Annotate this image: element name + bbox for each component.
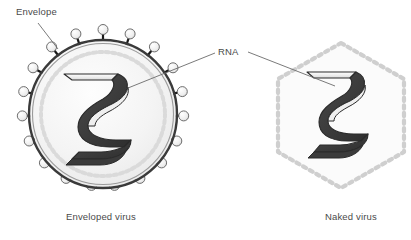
virus-comparison-diagram bbox=[0, 0, 411, 240]
naked-capsid-hexagon bbox=[278, 43, 404, 188]
caption-naked-virus: Naked virus bbox=[325, 211, 377, 222]
enveloped-virus-group bbox=[17, 25, 188, 191]
naked-virus-group bbox=[278, 43, 404, 188]
label-envelope: Envelope bbox=[16, 6, 57, 17]
caption-enveloped-virus: Enveloped virus bbox=[66, 211, 136, 222]
label-rna: RNA bbox=[218, 46, 239, 57]
